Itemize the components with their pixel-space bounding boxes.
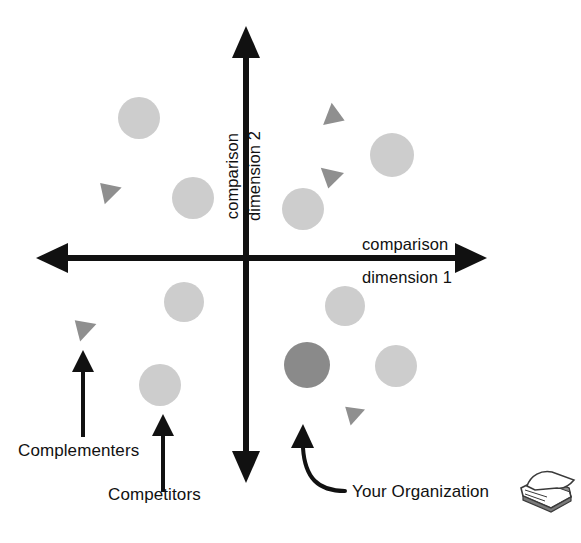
- axis-vertical: [232, 26, 260, 483]
- complementer-triangle[interactable]: [321, 161, 347, 189]
- vertical-axis-arrowhead-up: [232, 26, 260, 58]
- complementers-arrowhead: [72, 350, 94, 372]
- complementers-label: Complementers: [18, 441, 139, 460]
- vertical-axis-arrowhead-down: [232, 451, 260, 483]
- horizontal-axis-arrowhead-left: [36, 243, 68, 273]
- horizontal-axis-label-line1: comparison: [362, 235, 448, 253]
- competitor-circle[interactable]: [282, 188, 324, 230]
- competitors-callout-arrow: [152, 414, 174, 492]
- your-organization-callout-arrow: [291, 424, 345, 491]
- competitor-circle[interactable]: [325, 286, 365, 326]
- complementers-callout-arrow: [72, 350, 94, 437]
- positioning-map-diagram: comparison dimension 2 comparison dimens…: [0, 0, 581, 543]
- competitor-circle[interactable]: [139, 364, 181, 406]
- your-organization-arrowhead: [291, 424, 314, 448]
- horizontal-axis-label-line2: dimension 1: [362, 268, 452, 286]
- competitor-circle[interactable]: [118, 97, 160, 139]
- callout-labels-layer: Complementers Competitors Your Organizat…: [18, 441, 489, 504]
- your-organization-arrow-curve: [303, 448, 345, 491]
- competitor-circle[interactable]: [375, 345, 417, 387]
- complementer-triangle[interactable]: [96, 183, 122, 207]
- complementer-triangle[interactable]: [343, 407, 365, 428]
- your-organization-circle[interactable]: [284, 342, 330, 388]
- your-organization-label: Your Organization: [352, 482, 489, 501]
- competitors-arrowhead: [152, 414, 174, 436]
- complementer-triangle[interactable]: [319, 101, 345, 125]
- horizontal-axis-arrowhead-right: [455, 243, 487, 273]
- competitor-circle[interactable]: [172, 177, 214, 219]
- positioning-map-canvas: comparison dimension 2 comparison dimens…: [0, 0, 581, 543]
- paper-stack-icon: [521, 472, 574, 512]
- complementer-triangle[interactable]: [71, 320, 96, 344]
- vertical-axis-label-line2: dimension 2: [245, 131, 263, 221]
- competitor-circle[interactable]: [370, 133, 414, 177]
- vertical-axis-label-line1: comparison: [223, 133, 241, 219]
- competitors-label: Competitors: [108, 485, 201, 504]
- competitor-circle[interactable]: [164, 282, 204, 322]
